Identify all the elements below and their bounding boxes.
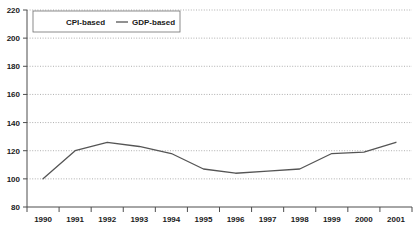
x-tick-label-1996: 1996 [227,215,245,224]
y-tick-label-200: 200 [7,34,21,43]
x-tick-label-1991: 1991 [66,215,84,224]
x-tick-label-1999: 1999 [323,215,341,224]
y-tick-label-140: 140 [7,119,21,128]
y-axis-labels: 220 200 180 160 140 120 100 80 [7,6,21,212]
y-tick-label-180: 180 [7,62,21,71]
x-tick-label-1994: 1994 [162,215,180,224]
line-chart: 220 200 180 160 140 120 100 80 1990 1991… [0,0,417,235]
x-tick-label-2001: 2001 [387,215,405,224]
y-axis-ticks [23,10,27,207]
x-tick-label-1993: 1993 [130,215,148,224]
y-tick-label-120: 120 [7,147,21,156]
x-tick-label-1998: 1998 [291,215,309,224]
x-axis-ticks [27,207,412,212]
y-tick-label-220: 220 [7,6,21,15]
y-tick-label-100: 100 [7,175,21,184]
legend: CPI-based GDP-based [33,11,180,32]
x-axis-labels: 1990 1991 1992 1993 1994 1995 1996 1997 … [34,215,405,224]
x-tick-label-2000: 2000 [355,215,373,224]
x-tick-label-1997: 1997 [259,215,277,224]
x-tick-label-1992: 1992 [98,215,116,224]
legend-label-cpi-based[interactable]: CPI-based [66,18,105,27]
chart-canvas: 220 200 180 160 140 120 100 80 1990 1991… [0,0,417,235]
x-tick-label-1990: 1990 [34,215,52,224]
y-tick-label-80: 80 [11,203,20,212]
y-tick-label-160: 160 [7,90,21,99]
legend-label-gdp-based[interactable]: GDP-based [132,18,175,27]
plot-area-background [27,10,412,207]
x-tick-label-1995: 1995 [195,215,213,224]
